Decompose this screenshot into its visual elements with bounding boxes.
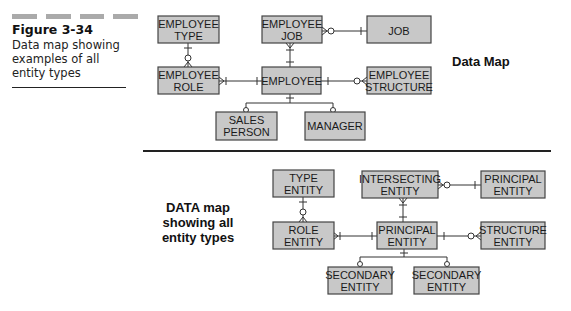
bottom-label-line-3: entity types [160,230,236,245]
svg-text:EMPLOYEE: EMPLOYEE [262,18,323,30]
top-diagram-label: Data Map [452,54,510,69]
svg-text:MANAGER: MANAGER [307,120,363,132]
entity-secondary-entity-2: SECONDARY ENTITY [412,267,482,294]
svg-text:EMPLOYEE: EMPLOYEE [369,69,430,81]
svg-text:PRINCIPAL: PRINCIPAL [378,224,435,236]
svg-text:JOB: JOB [388,25,409,37]
svg-text:SALES: SALES [229,114,264,126]
entity-employee-role: EMPLOYEE ROLE [158,67,219,94]
svg-text:EMPLOYEE: EMPLOYEE [261,75,322,87]
svg-text:JOB: JOB [281,30,302,42]
entity-employee-type: EMPLOYEE TYPE [158,16,219,43]
svg-text:ENTITY: ENTITY [493,236,533,248]
entity-structure-entity: STRUCTURE ENTITY [479,222,547,249]
data-map-diagrams: EMPLOYEE TYPE EMPLOYEE JOB JOB EMPLOYEE … [0,0,571,311]
svg-text:EMPLOYEE: EMPLOYEE [158,18,219,30]
svg-text:PRINCIPAL: PRINCIPAL [484,173,541,185]
entity-sales-person: SALES PERSON [216,112,277,140]
svg-text:ENTITY: ENTITY [493,185,533,197]
svg-text:SECONDARY: SECONDARY [412,269,482,281]
svg-text:ENTITY: ENTITY [284,184,324,196]
bottom-label-line-1: DATA map [160,200,236,215]
svg-text:INTERSECTING: INTERSECTING [359,173,441,185]
svg-text:SECONDARY: SECONDARY [325,269,395,281]
svg-text:ENTITY: ENTITY [387,236,427,248]
svg-text:ENTITY: ENTITY [340,281,380,293]
entity-employee-job: EMPLOYEE JOB [262,16,323,43]
svg-text:ENTITY: ENTITY [427,281,467,293]
entity-secondary-entity-1: SECONDARY ENTITY [325,267,395,294]
section-divider [143,150,551,152]
svg-text:STRUCTURE: STRUCTURE [365,81,433,93]
entity-manager: MANAGER [305,112,365,140]
entity-employee-structure: EMPLOYEE STRUCTURE [365,67,433,94]
bottom-label-line-2: showing all [160,215,236,230]
svg-text:STRUCTURE: STRUCTURE [479,224,547,236]
svg-text:ROLE: ROLE [289,224,319,236]
svg-text:TYPE: TYPE [174,30,203,42]
entity-employee: EMPLOYEE [261,67,322,94]
svg-text:PERSON: PERSON [223,126,270,138]
entity-intersecting-entity: INTERSECTING ENTITY [359,171,441,198]
entity-principal-entity-right: PRINCIPAL ENTITY [481,171,545,198]
entity-role-entity: ROLE ENTITY [273,222,334,249]
svg-text:ENTITY: ENTITY [380,185,420,197]
svg-text:EMPLOYEE: EMPLOYEE [158,69,219,81]
entity-job: JOB [367,16,431,43]
entity-principal-entity: PRINCIPAL ENTITY [377,222,437,249]
entity-type-entity: TYPE ENTITY [273,170,334,197]
bottom-diagram-label: DATA map showing all entity types [160,200,236,245]
svg-text:TYPE: TYPE [289,172,318,184]
svg-text:ENTITY: ENTITY [284,236,324,248]
svg-text:ROLE: ROLE [174,81,204,93]
